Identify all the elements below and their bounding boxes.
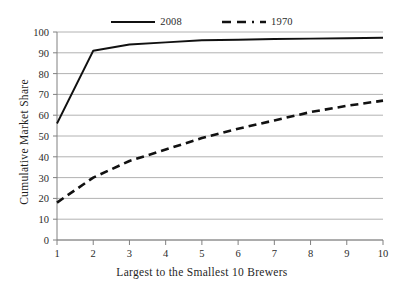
- plot-area: 0102030405060708090100 12345678910: [0, 0, 404, 289]
- series-line-2008: [57, 38, 383, 124]
- x-tick-label: 4: [163, 248, 168, 259]
- x-tick-label: 5: [199, 248, 204, 259]
- series-line-1970: [57, 101, 383, 203]
- x-tick-label: 2: [91, 248, 96, 259]
- x-tick-label: 9: [344, 248, 349, 259]
- x-tick-label: 3: [127, 248, 132, 259]
- x-tick-label: 6: [235, 248, 240, 259]
- x-tick-label: 7: [272, 248, 277, 259]
- plot-svg: [0, 0, 404, 289]
- x-tick-label: 10: [378, 248, 389, 259]
- gridlines: [57, 32, 383, 240]
- y-tick-label: 100: [0, 27, 49, 38]
- x-tick-label: 8: [308, 248, 313, 259]
- x-axis-title: Largest to the Smallest 10 Brewers: [0, 266, 404, 278]
- chart-container: 2008 1970 0102030405060708090100 1234567…: [0, 0, 404, 289]
- y-axis-title: Cumulative Market Share: [18, 42, 30, 242]
- x-tick-label: 1: [54, 248, 59, 259]
